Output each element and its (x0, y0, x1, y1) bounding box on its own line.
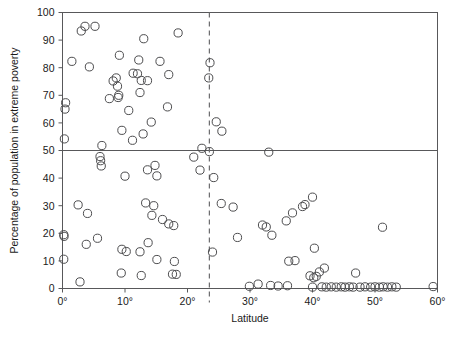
data-point (93, 234, 101, 242)
y-tick-label: 100 (37, 6, 55, 18)
data-point (128, 136, 136, 144)
data-point (105, 95, 113, 103)
data-point (83, 209, 91, 217)
data-point (208, 248, 216, 256)
data-point (301, 201, 309, 209)
data-point (153, 172, 161, 180)
data-point (135, 56, 143, 64)
y-tick-label: 0 (49, 282, 55, 294)
data-point (229, 203, 237, 211)
data-point (212, 118, 220, 126)
data-point (165, 220, 173, 228)
data-point (150, 202, 158, 210)
data-point (308, 193, 316, 201)
y-tick-label: 90 (43, 34, 55, 46)
data-point (163, 103, 171, 111)
data-point (68, 57, 76, 65)
data-point (268, 231, 276, 239)
data-point (60, 255, 68, 263)
data-point (310, 244, 318, 252)
data-point (118, 126, 126, 134)
data-point (74, 201, 82, 209)
data-point (206, 59, 214, 67)
data-point (115, 51, 123, 59)
x-tick-label: 40° (305, 295, 321, 307)
data-point (82, 240, 90, 248)
data-point (429, 282, 437, 290)
scatter-plot-figure: 01020304050607080901000°10°20°30°40°50°6… (0, 0, 455, 338)
y-tick-label: 20 (43, 227, 55, 239)
data-point (218, 127, 226, 135)
data-point (378, 223, 386, 231)
x-tick-label: 10° (117, 295, 133, 307)
data-point (254, 280, 262, 288)
data-point (139, 130, 147, 138)
data-points (60, 22, 438, 291)
data-point (198, 144, 206, 152)
data-point (190, 153, 198, 161)
data-point (117, 269, 125, 277)
y-tick-label: 10 (43, 255, 55, 267)
data-point (170, 221, 178, 229)
y-tick-label: 70 (43, 89, 55, 101)
y-tick-label: 60 (43, 117, 55, 129)
x-tick-label: 60° (430, 295, 446, 307)
x-tick-label: 20° (180, 295, 196, 307)
y-tick-label: 30 (43, 200, 55, 212)
data-point (174, 29, 182, 37)
data-point (143, 166, 151, 174)
data-point (288, 209, 296, 217)
y-tick-label: 40 (43, 172, 55, 184)
data-point (210, 173, 218, 181)
data-point (91, 22, 99, 30)
data-point (233, 233, 241, 241)
data-point (148, 211, 156, 219)
data-point (165, 71, 173, 79)
data-point (142, 199, 150, 207)
axis-tick-labels: 01020304050607080901000°10°20°30°40°50°6… (37, 6, 445, 306)
data-point (60, 135, 68, 143)
x-axis-title: Latitude (231, 312, 269, 324)
data-point (144, 239, 152, 247)
data-point (147, 118, 155, 126)
data-point (156, 57, 164, 65)
y-axis-title: Percentage of population in extreme pove… (8, 47, 20, 254)
data-point (245, 282, 253, 290)
y-tick-label: 80 (43, 62, 55, 74)
data-point (137, 271, 145, 279)
data-point (98, 141, 106, 149)
data-point (136, 88, 144, 96)
x-tick-label: 0° (57, 295, 67, 307)
data-point (153, 255, 161, 263)
data-point (143, 77, 151, 85)
data-point (136, 248, 144, 256)
data-point (97, 162, 105, 170)
data-point (217, 199, 225, 207)
data-point (205, 74, 213, 82)
x-tick-label: 50° (367, 295, 383, 307)
data-point (282, 217, 290, 225)
data-point (352, 269, 360, 277)
data-point (121, 172, 129, 180)
data-point (170, 257, 178, 265)
data-point (196, 166, 204, 174)
data-point (151, 161, 159, 169)
data-point (85, 63, 93, 71)
data-point (298, 202, 306, 210)
y-tick-label: 50 (43, 144, 55, 156)
data-point (140, 35, 148, 43)
chart-canvas: 01020304050607080901000°10°20°30°40°50°6… (0, 0, 455, 338)
data-point (291, 257, 299, 265)
reference-lines (63, 13, 438, 303)
data-point (113, 82, 121, 90)
data-point (125, 106, 133, 114)
data-point (265, 148, 273, 156)
data-point (76, 278, 84, 286)
x-tick-label: 30° (242, 295, 258, 307)
